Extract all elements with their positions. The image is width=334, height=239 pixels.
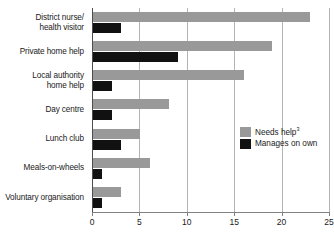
tick-mark (282, 212, 283, 216)
tick-label: 20 (277, 217, 286, 228)
category-label-line: Private home help (20, 47, 84, 57)
legend-label-superscript: 3 (296, 126, 299, 132)
category-label: Voluntary organisation (0, 183, 88, 212)
category-label-line: Lunch club (45, 134, 84, 144)
legend-label: Manages on own (255, 139, 317, 149)
bar-group (93, 183, 329, 212)
gridline (329, 8, 330, 212)
bar (93, 52, 178, 62)
plot-area (92, 8, 329, 212)
category-label-line: Day centre (45, 105, 84, 115)
bar-group (93, 8, 329, 37)
bar-group (93, 95, 329, 124)
tick-mark (139, 212, 140, 216)
bar (93, 110, 112, 120)
category-label-line: Meals-on-wheels (24, 163, 84, 173)
legend-entry[interactable]: Needs help3 (240, 127, 317, 137)
bar (93, 187, 121, 197)
bar (93, 158, 150, 168)
category-label: Lunch club (0, 125, 88, 154)
bar-chart: District nurse/health visitorPrivate hom… (0, 0, 334, 239)
bar (93, 129, 140, 139)
category-label-line: Local authority (32, 71, 84, 81)
legend: Needs help3Manages on own (240, 127, 317, 149)
category-label: District nurse/health visitor (0, 8, 88, 37)
bar (93, 198, 102, 208)
category-label: Local authorityhome help (0, 66, 88, 95)
legend-label-text: Manages on own (255, 139, 317, 148)
category-label-line: health visitor (39, 23, 84, 33)
tick-mark (234, 212, 235, 216)
legend-entry[interactable]: Manages on own (240, 139, 317, 149)
tick-mark (329, 212, 330, 216)
bar (93, 81, 112, 91)
bar (93, 99, 169, 109)
tick-mark (187, 212, 188, 216)
bar-group (93, 66, 329, 95)
tick-label: 5 (137, 217, 142, 228)
category-label-line: Voluntary organisation (5, 193, 84, 203)
category-label: Private home help (0, 37, 88, 66)
tick-marks (92, 212, 329, 216)
bar (93, 41, 272, 51)
tick-label: 0 (90, 217, 95, 228)
bar (93, 140, 121, 150)
category-label-line: home help (47, 81, 84, 91)
tick-label: 25 (324, 217, 333, 228)
legend-swatch-icon (240, 127, 251, 137)
category-label: Meals-on-wheels (0, 154, 88, 183)
bar (93, 23, 121, 33)
bar-group (93, 37, 329, 66)
legend-label-text: Needs help (255, 127, 296, 136)
legend-label: Needs help3 (255, 127, 299, 138)
legend-swatch-icon (240, 139, 251, 149)
category-label: Day centre (0, 95, 88, 124)
tick-label: 10 (182, 217, 191, 228)
category-label-line: District nurse/ (35, 13, 84, 23)
bar (93, 12, 310, 22)
value-axis-tick-labels: 0510152025 (92, 217, 329, 231)
bar-group (93, 154, 329, 183)
category-axis: District nurse/health visitorPrivate hom… (0, 8, 88, 212)
bar-groups (93, 8, 329, 212)
tick-mark (92, 212, 93, 216)
bar (93, 169, 102, 179)
tick-label: 15 (229, 217, 238, 228)
bar (93, 70, 244, 80)
